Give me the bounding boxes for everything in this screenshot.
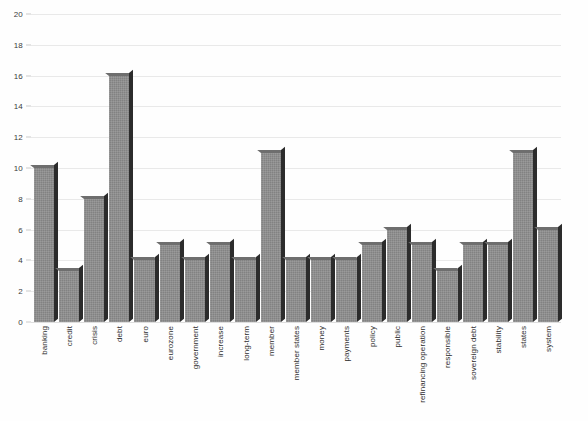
x-axis-tick-label: public xyxy=(392,326,401,348)
bar-slot xyxy=(311,14,331,322)
bar xyxy=(488,245,508,322)
bar xyxy=(437,271,457,322)
bar xyxy=(513,153,533,322)
bar-slot xyxy=(109,14,129,322)
y-axis-tick-label: 12 xyxy=(14,133,23,142)
bar-slot xyxy=(412,14,432,322)
bar xyxy=(210,245,230,322)
bar-slot xyxy=(34,14,54,322)
x-axis: bankingcreditcrisisdebteuroeurozonegover… xyxy=(31,326,561,421)
bar-slot xyxy=(286,14,306,322)
x-axis-tick-label: euro xyxy=(140,326,149,342)
y-axis-tick-label: 6 xyxy=(18,225,23,234)
y-axis-tick-label: 16 xyxy=(14,71,23,80)
bar xyxy=(387,230,407,322)
y-axis-tick-label: 14 xyxy=(14,102,23,111)
y-axis-tick-label: 8 xyxy=(18,194,23,203)
bar-slot xyxy=(210,14,230,322)
x-axis-tick-label: system xyxy=(544,326,553,352)
bar-slot xyxy=(362,14,382,322)
bar-slot xyxy=(336,14,356,322)
bar xyxy=(463,245,483,322)
x-axis-tick-label: sovereign debt xyxy=(468,326,477,380)
bar xyxy=(235,260,255,322)
x-axis-tick-label: member states xyxy=(291,326,300,380)
bar-slot xyxy=(463,14,483,322)
x-axis-tick-label: banking xyxy=(39,326,48,355)
bar-slot xyxy=(235,14,255,322)
x-axis-tick-label: payments xyxy=(342,326,351,361)
bar-slot xyxy=(84,14,104,322)
bar xyxy=(412,245,432,322)
y-axis-tick-label: 10 xyxy=(14,164,23,173)
bar-slot xyxy=(387,14,407,322)
x-axis-tick-label: states xyxy=(519,326,528,348)
y-axis-tick-label: 0 xyxy=(18,318,23,327)
y-axis-tick-label: 4 xyxy=(18,256,23,265)
x-axis-tick-label: increase xyxy=(216,326,225,357)
bar xyxy=(109,76,129,322)
bar-slot xyxy=(160,14,180,322)
bar-slot xyxy=(513,14,533,322)
bar xyxy=(34,168,54,322)
x-axis-tick-label: member xyxy=(266,326,275,356)
x-axis-tick-label: policy xyxy=(367,326,376,347)
bar xyxy=(311,260,331,322)
bar-chart: 02468101214161820 bankingcreditcrisisdeb… xyxy=(0,0,588,421)
bar-slot xyxy=(59,14,79,322)
bar xyxy=(59,271,79,322)
y-axis-tick-label: 18 xyxy=(14,40,23,49)
y-axis: 02468101214161820 xyxy=(0,14,31,322)
y-axis-tick-label: 2 xyxy=(18,287,23,296)
bar xyxy=(84,199,104,322)
bar-slot xyxy=(261,14,281,322)
x-axis-tick-label: crisis xyxy=(90,326,99,345)
bar xyxy=(134,260,154,322)
bar xyxy=(261,153,281,322)
bar-series xyxy=(31,14,561,322)
x-axis-tick-label: responsible xyxy=(443,326,452,368)
x-axis-tick-label: credit xyxy=(64,326,73,346)
x-axis-tick-label: money xyxy=(317,326,326,351)
bar xyxy=(538,230,558,322)
gridline-0 xyxy=(31,322,561,323)
bar xyxy=(362,245,382,322)
bar-slot xyxy=(185,14,205,322)
plot-area xyxy=(31,14,561,322)
x-axis-tick-label: eurozone xyxy=(165,326,174,360)
bar-slot xyxy=(488,14,508,322)
bar xyxy=(336,260,356,322)
x-axis-tick-label: refinancing operation xyxy=(418,326,427,403)
x-axis-tick-label: government xyxy=(191,326,200,369)
bar-slot xyxy=(538,14,558,322)
bar xyxy=(185,260,205,322)
x-axis-tick-label: stability xyxy=(493,326,502,354)
x-axis-tick-label: long-term xyxy=(241,326,250,361)
bar xyxy=(286,260,306,322)
bar-slot xyxy=(437,14,457,322)
bar-slot xyxy=(134,14,154,322)
y-axis-tick-label: 20 xyxy=(14,10,23,19)
x-axis-tick-label: debt xyxy=(115,326,124,342)
bar xyxy=(160,245,180,322)
